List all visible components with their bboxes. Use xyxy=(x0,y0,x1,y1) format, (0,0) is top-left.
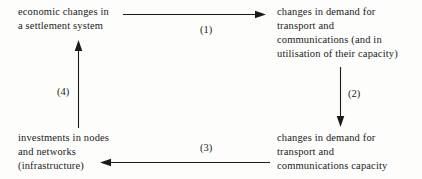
arrow-edge-2 xyxy=(337,67,345,127)
diagram-canvas: economic changes in a settlement system … xyxy=(0,0,422,179)
node-investments-infrastructure-line-3: (infrastructure) xyxy=(18,159,109,173)
node-demand-capacity-line-2: transport and xyxy=(277,145,387,159)
node-demand-capacity-line-1: changes in demand for xyxy=(277,131,387,145)
edge-label-2: (2) xyxy=(348,88,360,100)
edge-label-4: (4) xyxy=(57,86,69,98)
arrow-edge-4 xyxy=(75,40,83,128)
node-investments-infrastructure: investments in nodes and networks (infra… xyxy=(18,131,109,173)
edge-label-3: (3) xyxy=(200,142,212,154)
node-demand-transport-communications-line-4: utilisation of their capacity) xyxy=(277,47,398,61)
node-demand-transport-communications: changes in demand for transport and comm… xyxy=(277,5,398,61)
node-economic-changes: economic changes in a settlement system xyxy=(18,5,109,33)
node-demand-capacity: changes in demand for transport and comm… xyxy=(277,131,387,173)
arrow-edge-1 xyxy=(123,11,266,19)
node-economic-changes-line-2: a settlement system xyxy=(18,19,109,33)
edge-label-1: (1) xyxy=(200,24,212,36)
arrow-edge-3 xyxy=(100,159,270,167)
node-economic-changes-line-1: economic changes in xyxy=(18,5,109,19)
node-demand-transport-communications-line-1: changes in demand for xyxy=(277,5,398,19)
node-investments-infrastructure-line-1: investments in nodes xyxy=(18,131,109,145)
node-demand-transport-communications-line-2: transport and xyxy=(277,19,398,33)
node-investments-infrastructure-line-2: and networks xyxy=(18,145,109,159)
node-demand-transport-communications-line-3: communications (and in xyxy=(277,33,398,47)
node-demand-capacity-line-3: communications capacity xyxy=(277,159,387,173)
